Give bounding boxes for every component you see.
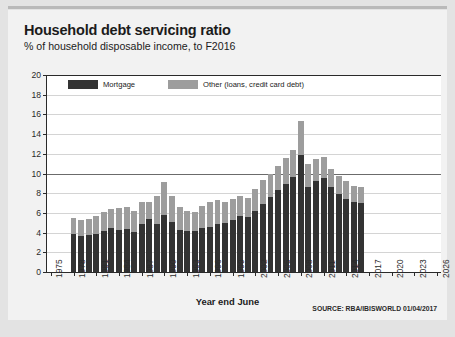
bar-1987 — [139, 202, 145, 272]
x-tick-label: 2005 — [282, 259, 292, 278]
bar-segment-other — [336, 176, 342, 194]
x-tick-mark — [74, 272, 75, 276]
x-tick-label: 2002 — [259, 259, 269, 278]
y-tick-label: 6 — [11, 208, 41, 218]
x-tick-label: 1993 — [191, 259, 201, 278]
bar-2014 — [343, 181, 349, 272]
y-tick-label: 8 — [11, 188, 41, 198]
x-tick-mark — [324, 272, 325, 276]
bar-segment-other — [222, 202, 228, 223]
bar-segment-other — [358, 187, 364, 203]
y-tick-mark — [43, 193, 47, 194]
x-tick-label: 1984 — [122, 259, 132, 278]
bar-2009 — [305, 164, 311, 272]
y-tick-mark — [43, 252, 47, 253]
bar-segment-mortgage — [131, 232, 137, 272]
bar-segment-mortgage — [343, 199, 349, 272]
x-tick-label: 2011 — [327, 260, 337, 278]
chart-subtitle: % of household disposable income, to F20… — [24, 40, 235, 52]
y-tick-label: 18 — [11, 90, 41, 100]
bar-segment-other — [86, 219, 92, 235]
bar-1981 — [93, 216, 99, 272]
legend-swatch-other — [168, 80, 198, 89]
y-tick-mark — [43, 95, 47, 96]
bar-segment-other — [184, 211, 190, 231]
bar-segment-other — [177, 207, 183, 230]
bar-2004 — [268, 174, 274, 273]
bar-segment-other — [283, 158, 289, 185]
legend-label-mortgage: Mortgage — [103, 80, 135, 89]
bar-segment-mortgage — [161, 215, 167, 272]
x-tick-mark — [437, 272, 438, 276]
source-note: SOURCE: RBA/IBISWORLD 01/04/2017 — [312, 305, 437, 312]
bar-segment-other — [124, 207, 130, 229]
bar-2012 — [328, 169, 334, 272]
y-tick-label: 12 — [11, 149, 41, 159]
bar-segment-other — [146, 202, 152, 219]
bar-1978 — [71, 218, 77, 272]
bar-segment-other — [71, 218, 77, 234]
bar-segment-other — [139, 202, 145, 224]
bar-segment-other — [199, 206, 205, 228]
x-tick-mark — [119, 272, 120, 276]
chart-page: Household debt servicing ratio % of hous… — [0, 0, 455, 337]
x-tick-label: 2008 — [304, 259, 314, 278]
plot-area: 02468101214161820 1975197819811984198719… — [46, 75, 441, 273]
bar-segment-other — [237, 196, 243, 216]
bar-segment-mortgage — [207, 227, 213, 272]
y-tick-mark — [43, 134, 47, 135]
bar-segment-other — [268, 174, 274, 198]
x-tick-label: 1987 — [145, 259, 155, 278]
bar-segment-mortgage — [321, 178, 327, 272]
bar-segment-other — [108, 209, 114, 228]
x-tick-label: 1990 — [168, 259, 178, 278]
x-tick-mark — [96, 272, 97, 276]
x-tick-label: 1978 — [77, 259, 87, 278]
bar-segment-mortgage — [139, 224, 145, 272]
bar-1990 — [161, 182, 167, 272]
bar-segment-other — [161, 182, 167, 215]
bar-segment-other — [351, 186, 357, 202]
legend-label-other: Other (loans, credit card debt) — [203, 80, 304, 89]
y-tick-mark — [43, 233, 47, 234]
gridline — [47, 75, 441, 76]
x-tick-label: 1996 — [213, 259, 223, 278]
legend-item-mortgage: Mortgage — [68, 80, 135, 89]
bar-2002 — [252, 189, 258, 272]
x-tick-mark — [51, 272, 52, 276]
bar-2005 — [275, 166, 281, 272]
bar-segment-other — [207, 202, 213, 227]
x-tick-mark — [392, 272, 393, 276]
x-tick-label: 1981 — [100, 259, 110, 278]
x-tick-mark — [233, 272, 234, 276]
x-tick-label: 1975 — [54, 259, 64, 278]
bar-2010 — [313, 159, 319, 272]
y-tick-label: 2 — [11, 247, 41, 257]
x-tick-mark — [346, 272, 347, 276]
y-tick-label: 20 — [11, 70, 41, 80]
bar-segment-other — [252, 189, 258, 211]
bar-segment-other — [313, 159, 319, 182]
bar-segment-mortgage — [298, 155, 304, 272]
top-divider — [8, 6, 447, 9]
x-tick-label: 2020 — [395, 259, 405, 278]
bar-2006 — [283, 158, 289, 272]
bar-segment-other — [101, 212, 107, 231]
x-tick-mark — [164, 272, 165, 276]
x-tick-mark — [142, 272, 143, 276]
y-tick-label: 10 — [11, 169, 41, 179]
x-tick-mark — [187, 272, 188, 276]
bar-segment-mortgage — [290, 177, 296, 272]
x-tick-mark — [210, 272, 211, 276]
bar-segment-mortgage — [93, 234, 99, 272]
bar-segment-other — [298, 121, 304, 154]
legend-item-other: Other (loans, credit card debt) — [168, 80, 304, 89]
bar-segment-other — [260, 180, 266, 204]
x-tick-label: 2014 — [350, 259, 360, 278]
y-tick-label: 16 — [11, 109, 41, 119]
bar-1996 — [207, 202, 213, 272]
x-tick-mark — [414, 272, 415, 276]
bar-segment-mortgage — [71, 234, 77, 272]
gridline — [47, 134, 441, 135]
bar-segment-other — [230, 199, 236, 220]
